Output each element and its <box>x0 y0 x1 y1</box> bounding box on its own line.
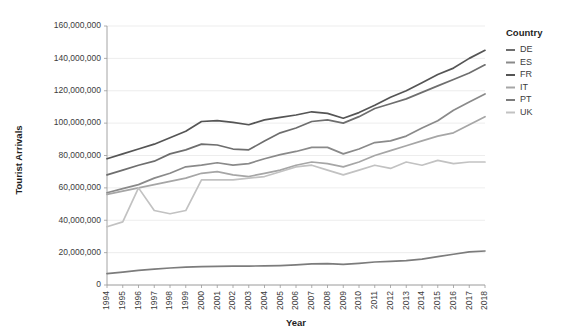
y-axis-tick-label: 160,000,000 <box>54 20 102 30</box>
x-axis-tick-label: 2002 <box>227 291 237 310</box>
x-axis-tick-label: 2015 <box>432 291 442 310</box>
x-axis-tick-label: 2011 <box>369 291 379 310</box>
x-axis-labels-group: 1994199519961997199819992000200120022003… <box>101 291 489 310</box>
y-axis-labels-group: 020,000,00040,000,00060,000,00080,000,00… <box>54 20 102 289</box>
legend-label-IT[interactable]: IT <box>520 82 529 92</box>
x-axis-tick-label: 2016 <box>448 291 458 310</box>
legend: Country DEESFRITPTUK <box>506 27 543 117</box>
series-line-PT <box>107 251 485 274</box>
x-axis-tick-label: 1994 <box>101 291 111 310</box>
x-axis-tick-label: 1996 <box>133 291 143 310</box>
x-axis-tick-label: 2006 <box>290 291 300 310</box>
x-axis-tick-label: 1999 <box>180 291 190 310</box>
legend-items-group: DEESFRITPTUK <box>506 44 533 117</box>
x-axis-tick-label: 2007 <box>306 291 316 310</box>
legend-label-ES[interactable]: ES <box>520 57 532 67</box>
x-axis-tick-label: 2014 <box>416 291 426 310</box>
legend-label-PT[interactable]: PT <box>520 94 532 104</box>
series-line-FR <box>107 50 485 158</box>
legend-label-DE[interactable]: DE <box>520 44 533 54</box>
x-axis-tick-label: 2005 <box>275 291 285 310</box>
legend-label-FR[interactable]: FR <box>520 69 532 79</box>
series-line-ES <box>107 94 485 193</box>
y-axis-tick-label: 0 <box>96 279 101 289</box>
x-axis-tick-label: 2018 <box>479 291 489 310</box>
x-axis-tick-label: 2000 <box>196 291 206 310</box>
line-chart: 020,000,00040,000,00060,000,00080,000,00… <box>0 0 564 334</box>
series-group <box>107 50 485 273</box>
gridlines-group <box>107 26 485 285</box>
x-axis-tick-label: 2001 <box>212 291 222 310</box>
y-axis-tick-label: 20,000,000 <box>58 247 101 257</box>
y-axis-tick-label: 140,000,000 <box>54 53 102 63</box>
y-axis-tick-label: 120,000,000 <box>54 85 102 95</box>
x-axis-tick-label: 1995 <box>117 291 127 310</box>
legend-title: Country <box>506 27 543 38</box>
y-axis-tick-label: 60,000,000 <box>58 182 101 192</box>
chart-svg: 020,000,00040,000,00060,000,00080,000,00… <box>0 0 564 334</box>
series-line-DE <box>107 65 485 175</box>
x-axis-tick-label: 2012 <box>385 291 395 310</box>
x-axis-tick-label: 2010 <box>353 291 363 310</box>
legend-label-UK[interactable]: UK <box>520 107 533 117</box>
x-axis-tick-label: 2009 <box>338 291 348 310</box>
x-axis-tick-label: 2003 <box>243 291 253 310</box>
x-axis-tick-label: 2008 <box>322 291 332 310</box>
x-axis-tick-label: 1998 <box>164 291 174 310</box>
series-line-UK <box>107 160 485 226</box>
x-axis-tick-label: 2017 <box>464 291 474 310</box>
x-axis-ticks-group <box>107 285 485 288</box>
y-axis-title: Tourist Arrivals <box>13 125 24 194</box>
x-axis-tick-label: 2013 <box>401 291 411 310</box>
y-axis-tick-label: 80,000,000 <box>58 150 101 160</box>
x-axis-tick-label: 1997 <box>149 291 159 310</box>
y-axis-tick-label: 40,000,000 <box>58 215 101 225</box>
x-axis-tick-label: 2004 <box>259 291 269 310</box>
y-axis-tick-label: 100,000,000 <box>54 117 102 127</box>
x-axis-title: Year <box>286 317 306 328</box>
